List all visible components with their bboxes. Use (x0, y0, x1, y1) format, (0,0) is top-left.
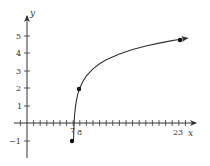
y-tick-5: 5 (16, 32, 21, 41)
x-tick-8: 8 (77, 128, 82, 137)
x-axis-label: x (188, 128, 193, 138)
chart: y x 5 4 3 2 1 −1 7 8 23 (0, 0, 210, 166)
x-tick-23: 23 (173, 128, 183, 137)
y-tick-3: 3 (16, 67, 21, 76)
function-curve (72, 38, 187, 141)
y-tick-2: 2 (16, 84, 21, 93)
y-tick-neg1: −1 (9, 137, 21, 146)
y-axis-label: y (29, 8, 36, 18)
x-axis (14, 120, 196, 126)
y-axis (24, 16, 30, 158)
point-7-neg1 (70, 139, 74, 143)
y-tick-1: 1 (17, 102, 22, 111)
y-tick-4: 4 (16, 49, 21, 58)
point-8-2 (77, 87, 81, 91)
point-23-end (178, 38, 182, 42)
